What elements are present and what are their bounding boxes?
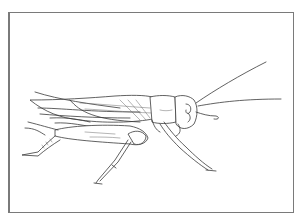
cerci <box>25 122 58 135</box>
wings <box>30 92 158 128</box>
hind-leg <box>22 136 60 156</box>
antennae <box>196 62 281 106</box>
head <box>175 96 218 136</box>
cricket-illustration <box>0 0 301 223</box>
pronotum <box>150 96 176 124</box>
